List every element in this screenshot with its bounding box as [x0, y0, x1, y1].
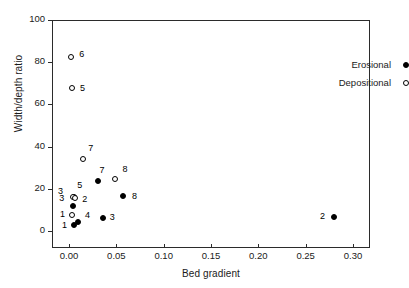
- data-point-label-erosional-2: 2: [320, 211, 325, 221]
- y-tick-mark: [48, 231, 52, 232]
- legend-marker-filled-circle-icon: [403, 62, 409, 68]
- x-tick-mark: [306, 244, 307, 248]
- y-tick-100: 100: [0, 20, 52, 21]
- legend-entry-depositional: Depositional: [301, 75, 409, 93]
- data-point-depositional-5[interactable]: [69, 85, 75, 91]
- y-tick-label: 80: [34, 55, 45, 66]
- data-point-depositional-7[interactable]: [80, 156, 86, 162]
- x-tick-mark: [116, 244, 117, 248]
- y-tick-label: 40: [34, 140, 45, 151]
- x-tick-mark: [211, 244, 212, 248]
- data-point-label-erosional-8: 8: [132, 191, 137, 201]
- y-tick-mark: [48, 62, 52, 63]
- data-point-depositional-1[interactable]: [69, 212, 75, 218]
- data-point-erosional-4[interactable]: [75, 219, 81, 225]
- data-point-erosional-3[interactable]: [100, 215, 106, 221]
- x-tick-label: 0.00: [54, 250, 84, 261]
- data-point-label-erosional-7: 7: [99, 165, 104, 175]
- y-tick-label: 20: [34, 182, 45, 193]
- data-point-label-depositional-2: 2: [82, 194, 87, 204]
- y-tick-mark: [48, 189, 52, 190]
- legend-marker-open-circle-icon: [403, 80, 409, 86]
- data-point-depositional-6[interactable]: [68, 54, 74, 60]
- y-tick-0: 0: [0, 231, 52, 232]
- x-tick-label: 0.30: [338, 250, 368, 261]
- x-tick-label: 0.15: [196, 250, 226, 261]
- x-tick-label: 0.20: [243, 250, 273, 261]
- x-tick-mark: [69, 244, 70, 248]
- data-point-label-depositional-1: 1: [60, 209, 65, 219]
- x-tick-label: 0.25: [291, 250, 321, 261]
- y-tick-40: 40: [0, 147, 52, 148]
- y-tick-80: 80: [0, 62, 52, 63]
- x-tick-label: 0.10: [149, 250, 179, 261]
- data-point-erosional-3[interactable]: [70, 203, 76, 209]
- data-point-label-erosional-3: 3: [110, 212, 115, 222]
- y-tick-mark: [48, 20, 52, 21]
- data-point-depositional-2[interactable]: [72, 195, 78, 201]
- y-tick-label: 100: [29, 13, 45, 24]
- data-point-label-depositional-5: 5: [80, 83, 85, 93]
- data-point-erosional-2[interactable]: [331, 214, 337, 220]
- y-tick-60: 60: [0, 104, 52, 105]
- data-point-label-erosional-5: 5: [77, 180, 82, 190]
- legend-entry-erosional: Erosional: [301, 57, 409, 75]
- y-tick-20: 20: [0, 189, 52, 190]
- data-point-erosional-8[interactable]: [120, 193, 126, 199]
- x-tick-label: 0.05: [101, 250, 131, 261]
- data-point-erosional-7[interactable]: [95, 178, 101, 184]
- legend-label-erosional: Erosional: [351, 59, 391, 70]
- data-point-label-depositional-7: 7: [88, 143, 93, 153]
- plot-area: 531437826573218 Erosional Depositional: [52, 20, 370, 248]
- chart-legend: Erosional Depositional: [301, 57, 409, 93]
- data-point-label-erosional-4: 4: [85, 210, 90, 220]
- data-point-depositional-8[interactable]: [112, 176, 118, 182]
- data-point-label-depositional-6: 6: [79, 49, 84, 59]
- y-tick-mark: [48, 147, 52, 148]
- data-point-label-depositional-3: 3: [58, 186, 63, 196]
- y-axis-label: Width/depth ratio: [13, 14, 24, 174]
- data-point-label-erosional-1: 1: [62, 220, 67, 230]
- x-axis-label: Bed gradient: [52, 268, 370, 279]
- x-tick-mark: [258, 244, 259, 248]
- y-tick-mark: [48, 104, 52, 105]
- y-tick-label: 60: [34, 97, 45, 108]
- x-tick-mark: [353, 244, 354, 248]
- x-tick-mark: [164, 244, 165, 248]
- y-tick-label: 0: [40, 224, 45, 235]
- legend-label-depositional: Depositional: [339, 77, 391, 88]
- data-point-label-depositional-8: 8: [122, 164, 127, 174]
